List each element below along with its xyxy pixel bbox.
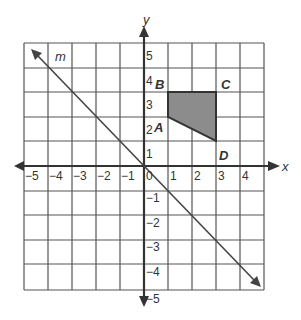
vertex-label-a: A <box>153 120 163 135</box>
svg-text:2: 2 <box>194 169 201 183</box>
svg-text:0: 0 <box>146 169 153 183</box>
svg-text:1: 1 <box>146 147 153 161</box>
svg-text:−5: −5 <box>146 292 160 306</box>
vertex-label-c: C <box>221 77 231 92</box>
svg-text:−1: −1 <box>121 169 135 183</box>
svg-text:−1: −1 <box>146 191 160 205</box>
svg-text:1: 1 <box>170 169 177 183</box>
vertex-label-d: D <box>219 148 229 163</box>
svg-text:4: 4 <box>146 74 153 88</box>
x-axis-label: x <box>281 159 289 174</box>
y-axis-up-arrow-icon <box>139 26 149 37</box>
svg-text:4: 4 <box>242 169 249 183</box>
svg-text:5: 5 <box>146 49 153 63</box>
svg-text:−2: −2 <box>146 216 160 230</box>
svg-text:3: 3 <box>218 169 225 183</box>
svg-text:−3: −3 <box>73 169 87 183</box>
svg-text:−4: −4 <box>49 169 63 183</box>
svg-text:−4: −4 <box>146 265 160 279</box>
svg-text:−2: −2 <box>97 169 111 183</box>
svg-text:2: 2 <box>146 123 153 137</box>
y-axis-label: y <box>142 12 151 27</box>
vertex-label-b: B <box>155 77 164 92</box>
svg-text:3: 3 <box>146 98 153 112</box>
coordinate-plane: x y m −5 −4 −3 −2 −1 0 1 2 3 4 5 4 3 2 1… <box>0 0 301 320</box>
svg-text:−5: −5 <box>25 169 39 183</box>
x-axis-right-arrow-icon <box>268 161 280 171</box>
x-axis-left-arrow-icon <box>14 161 24 171</box>
svg-text:−3: −3 <box>146 240 160 254</box>
line-m-label: m <box>55 49 66 64</box>
